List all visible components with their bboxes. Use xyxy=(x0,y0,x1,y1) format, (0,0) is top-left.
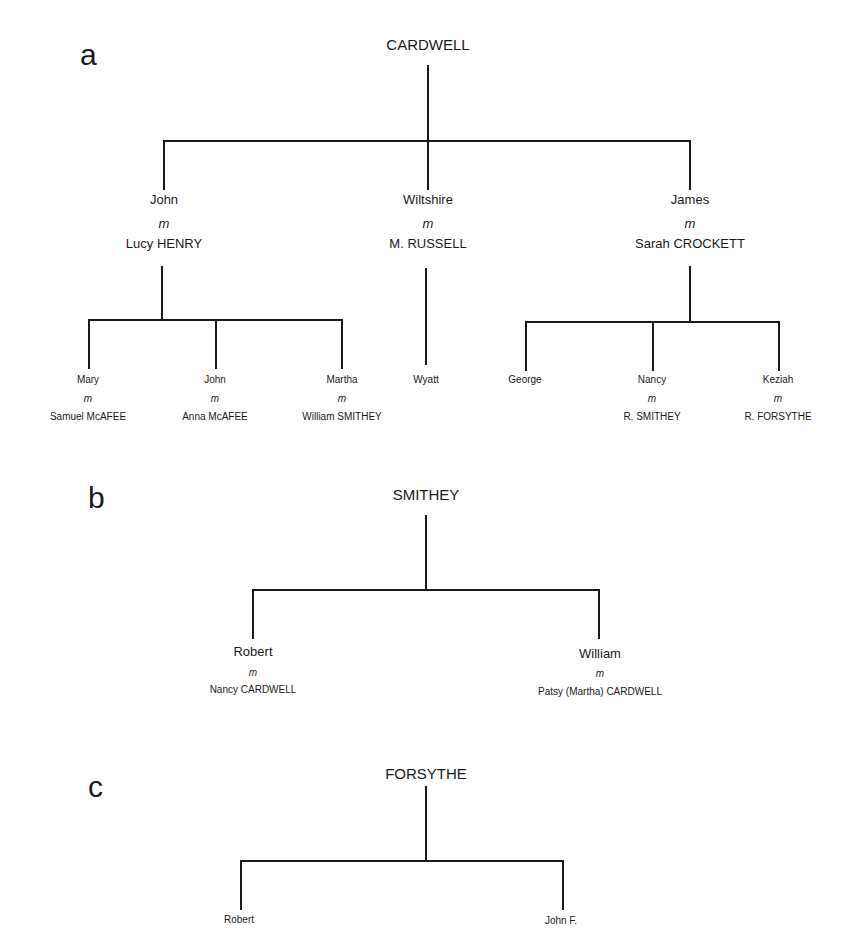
spouse-name: M. RUSSELL xyxy=(389,236,466,251)
person-name: Keziah xyxy=(763,374,794,385)
marriage-symbol: m xyxy=(338,393,346,404)
marriage-symbol: m xyxy=(249,667,257,678)
sibling-bar xyxy=(240,860,564,862)
spouse-name: Patsy (Martha) CARDWELL xyxy=(538,686,662,697)
connector-line xyxy=(240,860,242,910)
person-name: Mary xyxy=(77,374,99,385)
root-smithey: SMITHEY xyxy=(393,486,460,503)
person-name: John xyxy=(204,374,226,385)
connector-line xyxy=(598,589,600,639)
connector-line xyxy=(252,589,254,639)
person-name: John xyxy=(150,192,178,207)
spouse-name: R. FORSYTHE xyxy=(744,411,811,422)
connector-line xyxy=(525,321,527,371)
connector-line xyxy=(427,140,429,190)
connector-line xyxy=(341,319,343,369)
panel-label-b: b xyxy=(88,483,105,513)
person-name: Wyatt xyxy=(413,374,438,385)
marriage-symbol: m xyxy=(774,393,782,404)
spouse-name: Samuel McAFEE xyxy=(50,411,126,422)
spouse-name: William SMITHEY xyxy=(302,411,381,422)
marriage-symbol: m xyxy=(685,216,696,231)
marriage-symbol: m xyxy=(423,216,434,231)
connector-line xyxy=(161,266,163,321)
spouse-name: Nancy CARDWELL xyxy=(210,684,297,695)
connector-line xyxy=(215,319,217,369)
person-name: George xyxy=(508,374,541,385)
panel-label-a: a xyxy=(80,40,97,70)
connector-line xyxy=(427,65,429,141)
marriage-symbol: m xyxy=(648,393,656,404)
connector-line xyxy=(652,321,654,371)
spouse-name: Sarah CROCKETT xyxy=(635,236,745,251)
connector-line xyxy=(778,321,780,371)
marriage-symbol: m xyxy=(84,393,92,404)
connector-line xyxy=(425,515,427,591)
sibling-bar xyxy=(252,589,600,591)
connector-line xyxy=(163,140,165,190)
spouse-name: Anna McAFEE xyxy=(182,411,248,422)
connector-line xyxy=(562,860,564,910)
root-cardwell: CARDWELL xyxy=(386,36,469,53)
panel-label-c: c xyxy=(88,772,103,802)
person-name: Robert xyxy=(233,644,272,659)
person-name: Robert xyxy=(224,914,254,925)
connector-line xyxy=(88,319,90,369)
spouse-name: Lucy HENRY xyxy=(126,236,202,251)
marriage-symbol: m xyxy=(159,216,170,231)
connector-line xyxy=(689,266,691,323)
root-forsythe: FORSYTHE xyxy=(385,765,467,782)
person-name: Nancy xyxy=(638,374,666,385)
marriage-symbol: m xyxy=(596,668,604,679)
connector-line xyxy=(425,268,427,365)
marriage-symbol: m xyxy=(211,393,219,404)
person-name: Martha xyxy=(326,374,357,385)
person-name: John F. xyxy=(545,915,577,926)
person-name: James xyxy=(671,192,709,207)
connector-line xyxy=(689,140,691,190)
spouse-name: R. SMITHEY xyxy=(623,411,680,422)
person-name: Wiltshire xyxy=(403,192,453,207)
person-name: William xyxy=(579,646,621,661)
connector-line xyxy=(425,786,427,862)
